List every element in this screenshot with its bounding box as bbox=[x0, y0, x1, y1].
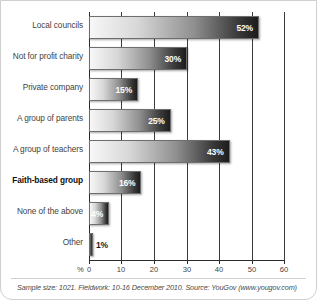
bar-row: 16% bbox=[89, 167, 285, 198]
category-label-group-of-parents: A group of parents bbox=[1, 113, 83, 123]
bar-row: 4% bbox=[89, 198, 285, 229]
category-label-group-of-teachers: A group of teachers bbox=[1, 144, 83, 154]
category-label-faith-based-group: Faith-based group bbox=[1, 175, 83, 185]
category-label-private-company: Private company bbox=[1, 82, 83, 92]
bar-value-label: 52% bbox=[236, 23, 257, 33]
x-tick bbox=[89, 260, 90, 264]
bar-value-label: 30% bbox=[165, 54, 186, 64]
source-note: Sample size: 1021. Fieldwork: 10-16 Dece… bbox=[17, 283, 304, 292]
bar-value-label: 4% bbox=[91, 209, 108, 219]
x-tick bbox=[284, 260, 285, 264]
footer-divider bbox=[11, 278, 306, 279]
bar-row: 1% bbox=[89, 229, 285, 260]
bar-row: 25% bbox=[89, 105, 285, 136]
bar-value-label: 43% bbox=[207, 147, 228, 157]
x-tick-label: 30 bbox=[183, 265, 191, 274]
bar-value-label: 1% bbox=[92, 240, 108, 250]
bar-row: 15% bbox=[89, 74, 285, 105]
bar-group-of-teachers: 43% bbox=[89, 140, 230, 163]
bar-value-label: 25% bbox=[148, 116, 169, 126]
x-tick-label: 40 bbox=[215, 265, 223, 274]
x-tick-label: 20 bbox=[150, 265, 158, 274]
chart-card: 52% 30% 15% 25% 43% 16% bbox=[0, 0, 317, 300]
x-tick bbox=[187, 260, 188, 264]
bar-value-label: 16% bbox=[119, 178, 140, 188]
x-tick bbox=[252, 260, 253, 264]
clipped-title-fragment bbox=[1, 1, 317, 5]
bar-private-company: 15% bbox=[89, 78, 138, 101]
bar-row: 30% bbox=[89, 43, 285, 74]
bar-other: 1% bbox=[89, 233, 93, 256]
x-tick bbox=[219, 260, 220, 264]
bar-row: 52% bbox=[89, 12, 285, 43]
x-tick bbox=[121, 260, 122, 264]
x-tick-label: 60 bbox=[280, 265, 288, 274]
category-label-other: Other bbox=[1, 237, 83, 247]
x-tick-label: 0 bbox=[87, 265, 91, 274]
bar-local-councils: 52% bbox=[89, 16, 259, 39]
bar-none-of-the-above: 4% bbox=[89, 202, 109, 225]
bar-not-for-profit-charity: 30% bbox=[89, 47, 187, 70]
bar-group-of-parents: 25% bbox=[89, 109, 171, 132]
x-tick bbox=[154, 260, 155, 264]
axis-percent-symbol: % bbox=[77, 265, 84, 274]
category-label-local-councils: Local councils bbox=[1, 20, 83, 30]
x-tick-label: 10 bbox=[117, 265, 125, 274]
plot-area: 52% 30% 15% 25% 43% 16% bbox=[89, 12, 285, 260]
category-label-not-for-profit: Not for profit charity bbox=[1, 51, 83, 61]
bar-row: 43% bbox=[89, 136, 285, 167]
bar-value-label: 15% bbox=[116, 85, 137, 95]
x-axis: 0 10 20 30 40 50 60 bbox=[89, 260, 285, 278]
bar-faith-based-group: 16% bbox=[89, 171, 141, 194]
category-label-none-of-the-above: None of the above bbox=[1, 206, 83, 216]
x-tick-label: 50 bbox=[248, 265, 256, 274]
